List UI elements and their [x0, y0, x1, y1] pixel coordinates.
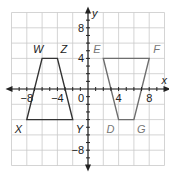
vertex-label-Y: Y	[76, 123, 84, 135]
y-tick-label: 4	[78, 52, 84, 64]
x-tick-label: 8	[146, 92, 152, 104]
vertex-label-D: D	[107, 123, 115, 135]
vertex-label-G: G	[137, 123, 146, 135]
y-axis-arrow-down-icon	[85, 165, 91, 172]
axes	[6, 7, 170, 172]
x-axis-arrow-right-icon	[164, 86, 170, 92]
y-tick-label: 8	[78, 22, 84, 34]
vertex-label-X: X	[14, 123, 23, 135]
origin-label: 0	[78, 92, 84, 104]
x-axis-label: x	[161, 74, 168, 86]
x-tick-label: 4	[116, 92, 122, 104]
y-axis-arrow-up-icon	[85, 7, 91, 14]
vertex-label-Z: Z	[59, 43, 68, 55]
x-tick-label: −4	[51, 92, 64, 104]
vertex-label-E: E	[93, 43, 101, 55]
coordinate-plane: WZYXEFGD−8−44884−80xy	[0, 0, 169, 180]
vertex-label-F: F	[153, 43, 161, 55]
x-tick-label: −8	[21, 92, 34, 104]
y-tick-label: −8	[71, 144, 84, 156]
vertex-label-W: W	[33, 43, 45, 55]
x-axis-arrow-left-icon	[6, 86, 13, 92]
